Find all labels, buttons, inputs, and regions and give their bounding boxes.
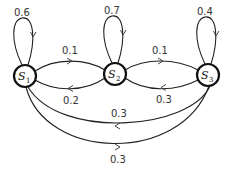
edge-label: 0.7 — [104, 5, 120, 16]
edge-label: 0.4 — [197, 6, 213, 17]
node-label: S — [201, 69, 209, 82]
node-s3: S 3 — [197, 64, 219, 86]
node-subscript: 3 — [209, 76, 213, 84]
edge-label: 0.1 — [62, 45, 78, 56]
edge-label: 0.1 — [152, 45, 168, 56]
edge-s1-s3: 0.3 — [26, 86, 209, 165]
edge-s1-s1: 0.6 — [14, 7, 36, 65]
node-s1: S 1 — [14, 65, 36, 87]
arrow-icon — [115, 144, 120, 150]
node-label: S — [18, 70, 26, 83]
node-label: S — [108, 68, 116, 81]
edge-label: 0.6 — [14, 7, 30, 18]
node-s2: S 2 — [104, 63, 126, 85]
edge-label: 0.3 — [110, 154, 126, 165]
edge-s2-s1: 0.2 — [35, 78, 105, 106]
edge-s2-s2: 0.7 — [104, 5, 126, 63]
markov-chain-diagram: 0.6 0.7 0.4 0.1 0.2 0.1 0.3 0.3 — [0, 0, 235, 172]
edge-s1-s2: 0.1 — [35, 45, 105, 71]
arrow-icon — [115, 123, 120, 129]
edge-s3-s2: 0.3 — [125, 78, 198, 105]
edge-s3-s3: 0.4 — [197, 6, 219, 64]
node-subscript: 1 — [26, 77, 30, 85]
edge-label: 0.2 — [63, 95, 79, 106]
edge-label: 0.3 — [111, 108, 127, 119]
edge-label: 0.3 — [156, 94, 172, 105]
arrow-icon — [161, 85, 166, 91]
node-subscript: 2 — [116, 75, 120, 83]
edge-s2-s3: 0.1 — [125, 45, 198, 70]
